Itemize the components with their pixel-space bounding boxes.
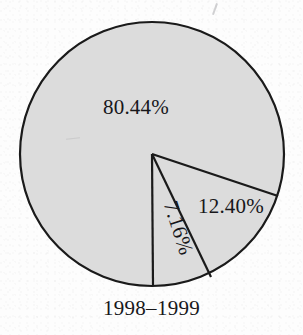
- slice-label-80: 80.44%: [103, 95, 169, 119]
- pie-chart-figure: 80.44% 12.40% 7.16% 1998–1999: [0, 0, 303, 335]
- slice-label-12: 12.40%: [198, 194, 264, 218]
- pie-chart-graphic: 80.44% 12.40% 7.16%: [0, 0, 303, 335]
- chart-caption: 1998–1999: [0, 296, 303, 321]
- slice-divider-80-to-7: [152, 154, 153, 286]
